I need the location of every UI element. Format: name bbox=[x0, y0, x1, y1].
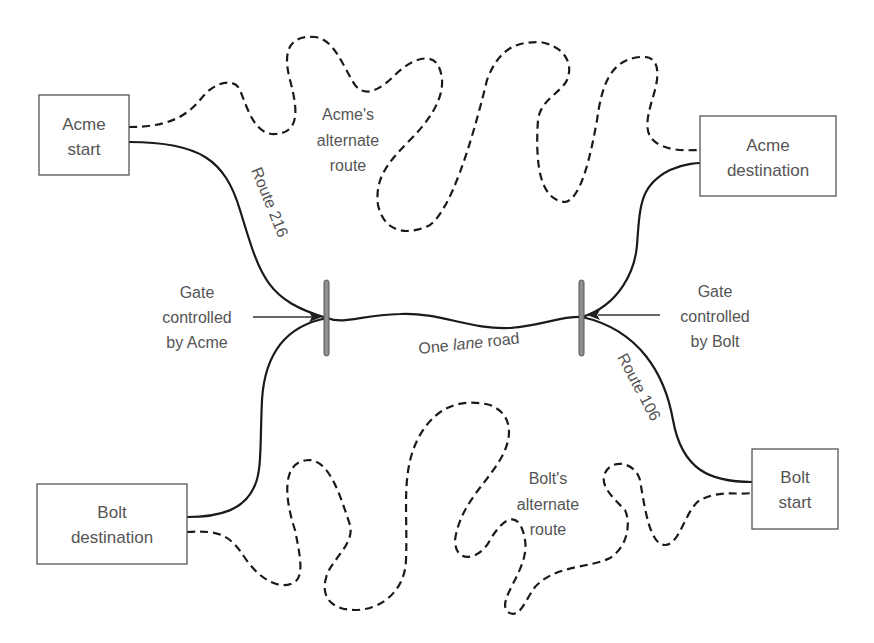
bolt-gate-line2: controlled bbox=[680, 308, 749, 325]
bolt-alt-line2: alternate bbox=[517, 496, 579, 513]
acme-destination-node: Acme destination bbox=[700, 116, 836, 196]
bolt-alt-line3: route bbox=[530, 521, 567, 538]
one-lane-road bbox=[327, 314, 582, 328]
bolt-gate-arrow-icon bbox=[587, 310, 660, 320]
acme-gate-arrow-icon bbox=[253, 312, 322, 322]
acme-start-node: Acme start bbox=[39, 95, 129, 175]
bolt-gate-label: Gate controlled by Bolt bbox=[680, 283, 749, 350]
road-to-acme-destination bbox=[582, 163, 700, 317]
acme-alternate-route-label: Acme's alternate route bbox=[317, 106, 379, 174]
one-lane-road-label: One lane road bbox=[418, 329, 521, 357]
acme-alt-line1: Acme's bbox=[322, 106, 374, 123]
acme-alternate-route bbox=[129, 37, 700, 231]
acme-start-label-line1: Acme bbox=[62, 115, 105, 134]
bolt-start-node: Bolt start bbox=[752, 449, 838, 529]
acme-gate-label: Gate controlled by Acme bbox=[162, 284, 231, 351]
bolt-start-label-line1: Bolt bbox=[780, 468, 810, 487]
acme-gate-line3: by Acme bbox=[166, 334, 227, 351]
bolt-gate-bar bbox=[579, 280, 584, 356]
acme-gate-line2: controlled bbox=[162, 309, 231, 326]
one-lane-road-label-prefix: One bbox=[418, 336, 454, 357]
bolt-alt-line1: Bolt's bbox=[529, 470, 568, 487]
bolt-destination-label-line2: destination bbox=[71, 528, 153, 547]
one-lane-road-label-italic: lane bbox=[452, 333, 484, 353]
one-lane-road-label-suffix: road bbox=[482, 329, 520, 350]
bolt-gate-line1: Gate bbox=[698, 283, 733, 300]
gate-road-diagram: Acme start Acme destination Bolt destina… bbox=[0, 0, 874, 643]
bolt-alternate-route bbox=[187, 403, 752, 614]
bolt-start-label-line2: start bbox=[778, 493, 811, 512]
acme-gate-line1: Gate bbox=[180, 284, 215, 301]
route-106-label: Route 106 bbox=[614, 350, 664, 423]
bolt-alternate-route-label: Bolt's alternate route bbox=[517, 470, 579, 538]
bolt-gate-line3: by Bolt bbox=[691, 333, 740, 350]
bolt-destination-label-line1: Bolt bbox=[97, 503, 127, 522]
bolt-destination-node: Bolt destination bbox=[37, 484, 187, 564]
acme-destination-label-line2: destination bbox=[727, 161, 809, 180]
route-216-label: Route 216 bbox=[248, 165, 291, 240]
acme-destination-label-line1: Acme bbox=[746, 136, 789, 155]
acme-alt-line3: route bbox=[330, 157, 367, 174]
acme-alt-line2: alternate bbox=[317, 132, 379, 149]
acme-gate-bar bbox=[324, 280, 329, 356]
route-216-road bbox=[129, 142, 327, 318]
acme-start-label-line2: start bbox=[67, 140, 100, 159]
